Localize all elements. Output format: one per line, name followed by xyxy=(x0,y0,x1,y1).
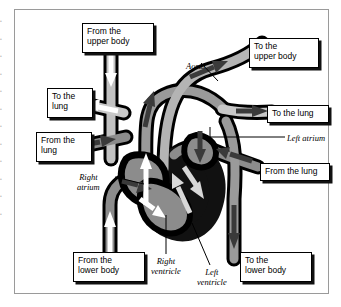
annotation-aorta: Aorta xyxy=(186,61,205,71)
annotation-right-ventricle: Right ventricle xyxy=(151,256,181,276)
label-to-the-lung-left: To the lung xyxy=(47,88,93,118)
label-from-the-upper-body: From the upper body xyxy=(82,23,154,53)
label-from-the-lower-body: From the lower body xyxy=(73,252,145,282)
annotation-left-ventricle: Left ventricle xyxy=(197,267,227,287)
label-from-the-lung-right: From the lung xyxy=(260,163,330,181)
label-to-the-upper-body: To the upper body xyxy=(249,38,319,68)
label-to-the-lower-body: To the lower body xyxy=(240,252,312,282)
label-to-the-lung-right: To the lung xyxy=(267,105,329,123)
annotation-left-atrium: Left atrium xyxy=(287,133,325,143)
page-bleed-text: •••• •••• •••• xyxy=(0,18,12,218)
annotation-right-atrium: Right atrium xyxy=(77,172,100,192)
label-from-the-lung-left: From the lung xyxy=(36,132,92,162)
